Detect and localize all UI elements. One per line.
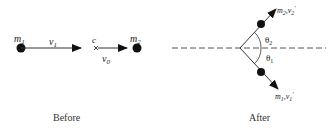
center-mark-icon [94,46,98,50]
upper-particle-label: m2,v2' [277,5,296,16]
velocity1-label: v1 [49,36,57,49]
lower-particle-label: m1,v1' [275,91,294,102]
theta1-arc [255,48,262,64]
mass1-after-dot [257,68,265,76]
center-label: c [92,35,96,45]
before-caption: Before [53,112,81,123]
collision-diagram: m1 v1 c v0 m2 Before θ2 θ1 m2,v2' m1,v1'… [0,0,335,129]
velocity0-label: v0 [102,53,110,66]
theta1-label: θ1 [266,53,273,64]
after-caption: After [249,112,271,123]
mass2-after-dot [257,20,265,28]
before-panel: m1 v1 c v0 m2 Before [14,33,142,123]
after-panel: θ2 θ1 m2,v2' m1,v1' After [172,5,326,124]
lower-trajectory-arrow [240,48,278,89]
theta2-arc [255,32,262,48]
theta2-label: θ2 [265,35,272,46]
